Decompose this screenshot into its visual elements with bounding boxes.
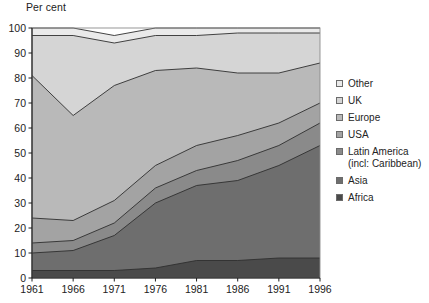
x-axis-tick-label: 1971: [103, 283, 127, 295]
legend-item[interactable]: UK: [336, 95, 429, 107]
y-axis-tick-label: 70: [14, 97, 26, 109]
x-axis-tick-label: 1981: [185, 283, 209, 295]
y-axis-tick-label: 100: [8, 22, 26, 34]
y-axis-tick-label: 50: [14, 147, 26, 159]
y-axis-tick-label: 90: [14, 47, 26, 59]
stacked-area-chart: Per cent 1009080706050403020100196119661…: [0, 0, 429, 303]
legend-swatch-icon: [336, 148, 343, 155]
legend-swatch-icon: [336, 97, 343, 104]
legend-item[interactable]: Other: [336, 78, 429, 90]
legend-item-label: Latin America (incl: Caribbean): [348, 146, 421, 169]
y-axis-tick-label: 80: [14, 72, 26, 84]
legend-swatch-icon: [336, 177, 343, 184]
x-axis-tick-label: 1986: [226, 283, 250, 295]
x-axis-tick-label: 1996: [308, 283, 332, 295]
x-axis: 19611966197119761981198619911996: [20, 278, 332, 295]
x-axis-tick-label: 1961: [20, 283, 44, 295]
x-axis-tick-label: 1966: [61, 283, 85, 295]
legend-swatch-icon: [336, 194, 343, 201]
y-axis-tick-label: 20: [14, 222, 26, 234]
y-axis: 1009080706050403020100: [8, 22, 32, 284]
legend-item-label: Other: [348, 78, 373, 90]
y-axis-tick-label: 40: [14, 172, 26, 184]
legend-item-label: Asia: [348, 175, 367, 187]
y-axis-tick-label: 0: [20, 272, 26, 284]
legend-item-label: UK: [348, 95, 362, 107]
y-axis-tick-label: 10: [14, 247, 26, 259]
legend-item[interactable]: Europe: [336, 112, 429, 124]
legend-item[interactable]: Asia: [336, 175, 429, 187]
chart-legend: OtherUKEuropeUSALatin America (incl: Car…: [336, 78, 429, 209]
x-axis-tick-label: 1976: [144, 283, 168, 295]
legend-swatch-icon: [336, 80, 343, 87]
x-axis-tick-label: 1991: [267, 283, 291, 295]
y-axis-tick-label: 30: [14, 197, 26, 209]
y-axis-tick-label: 60: [14, 122, 26, 134]
legend-item-label: Europe: [348, 112, 380, 124]
legend-item[interactable]: Africa: [336, 192, 429, 204]
legend-swatch-icon: [336, 131, 343, 138]
legend-item-label: USA: [348, 129, 369, 141]
legend-swatch-icon: [336, 114, 343, 121]
legend-item[interactable]: Latin America (incl: Caribbean): [336, 146, 429, 169]
legend-item-label: Africa: [348, 192, 374, 204]
legend-item[interactable]: USA: [336, 129, 429, 141]
